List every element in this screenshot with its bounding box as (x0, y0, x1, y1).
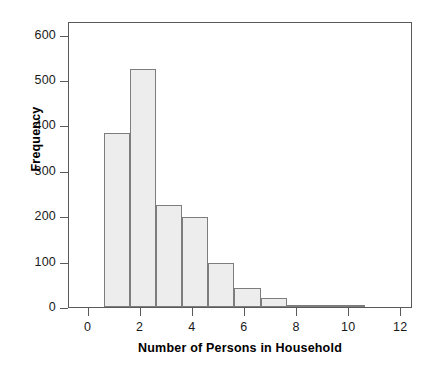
y-axis-tick (60, 36, 68, 37)
histogram-bar (287, 305, 313, 307)
plot-area (68, 22, 412, 308)
histogram-bar (182, 217, 208, 307)
x-axis-tick-label: 10 (328, 320, 368, 334)
y-axis-tick (60, 126, 68, 127)
x-axis-tick-label: 6 (224, 320, 264, 334)
x-axis-tick (296, 308, 297, 316)
y-axis-tick (60, 308, 68, 309)
x-axis-tick (88, 308, 89, 316)
x-axis-tick (192, 308, 193, 316)
histogram-bar (130, 69, 156, 307)
histogram-bar (234, 288, 260, 307)
y-axis-tick-label: 0 (12, 300, 56, 314)
x-axis-tick-label: 4 (172, 320, 212, 334)
histogram-bar (339, 305, 365, 307)
histogram-bar (104, 133, 130, 307)
x-axis-tick (348, 308, 349, 316)
histogram-bar (208, 263, 234, 307)
histogram-bar (156, 205, 182, 307)
x-axis-tick-label: 8 (276, 320, 316, 334)
x-axis-tick (244, 308, 245, 316)
y-axis-tick-label: 600 (12, 28, 56, 42)
x-axis-tick (140, 308, 141, 316)
y-axis-tick (60, 263, 68, 264)
y-axis-tick-label: 200 (12, 209, 56, 223)
histogram-bar (261, 298, 287, 307)
x-axis-tick (400, 308, 401, 316)
x-axis-tick-label: 2 (120, 320, 160, 334)
y-axis-tick-label: 100 (12, 255, 56, 269)
x-axis-tick-label: 12 (380, 320, 420, 334)
y-axis-title: Frequency (29, 79, 43, 199)
histogram-bar (313, 305, 339, 307)
x-axis-title: Number of Persons in Household (68, 341, 412, 355)
histogram-figure: 0100200300400500600 Frequency 024681012 … (0, 0, 437, 367)
y-axis-tick (60, 172, 68, 173)
bars-layer (69, 23, 411, 307)
y-axis-tick (60, 81, 68, 82)
x-axis-tick-label: 0 (68, 320, 108, 334)
y-axis-tick (60, 217, 68, 218)
